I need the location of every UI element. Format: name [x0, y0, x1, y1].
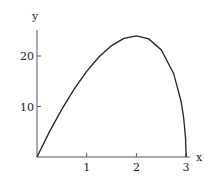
x-tick-label: 3	[183, 161, 190, 174]
data-line	[37, 36, 186, 157]
ticks: 1231020	[20, 50, 190, 174]
x-tick-label: 1	[83, 161, 90, 174]
x-axis-label: x	[196, 151, 203, 164]
x-tick-label: 2	[133, 161, 140, 174]
y-tick-label: 20	[20, 50, 34, 63]
y-tick-label: 10	[20, 101, 34, 114]
chart: 1231020 x y	[0, 0, 213, 181]
axes	[37, 30, 190, 157]
y-axis-label: y	[31, 10, 39, 23]
